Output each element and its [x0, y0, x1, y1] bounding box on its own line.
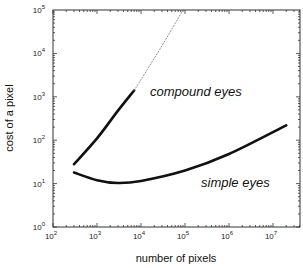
y-tick-label: 100 [33, 221, 46, 232]
x-tick-label: 104 [133, 230, 146, 241]
axis-ticks: 102103104105106107100101102103104105 [33, 4, 300, 241]
series-compound-eyes-extrapolated [134, 10, 183, 90]
annotation-simple-eyes: simple eyes [201, 175, 270, 190]
x-tick-label: 106 [221, 230, 234, 241]
y-tick-label: 102 [33, 134, 46, 145]
y-tick-label: 103 [33, 91, 46, 102]
plot-frame [53, 10, 300, 227]
x-axis-label: number of pixels [136, 252, 217, 264]
y-axis-label: cost of a pixel [3, 84, 15, 151]
y-tick-label: 101 [33, 178, 46, 189]
chart: 102103104105106107100101102103104105 com… [0, 0, 303, 268]
x-tick-label: 103 [89, 230, 102, 241]
x-tick-label: 105 [177, 230, 190, 241]
x-tick-label: 107 [265, 230, 278, 241]
x-tick-label: 102 [45, 230, 58, 241]
annotation-compound-eyes: compound eyes [150, 84, 242, 99]
y-tick-label: 105 [33, 4, 46, 15]
series-compound-eyes [74, 90, 134, 164]
y-tick-label: 104 [33, 47, 46, 58]
